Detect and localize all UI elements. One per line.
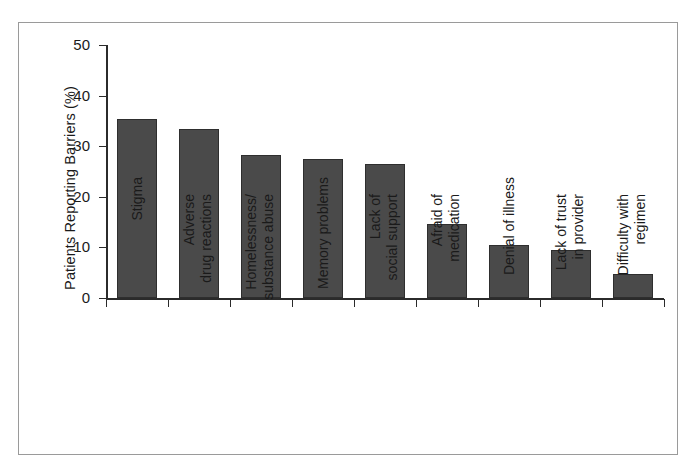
y-tick-mark [99, 96, 106, 97]
x-tick-mark [664, 299, 665, 307]
x-category-label: Lack ofsocial support [367, 194, 401, 344]
x-tick-mark [478, 299, 479, 307]
x-category-label-wrap: Lack of trustin provider [553, 194, 587, 344]
x-category-label-line: Difficulty with [615, 194, 632, 344]
x-category-label-line: Homelessness/ [243, 194, 260, 344]
x-tick-mark [168, 299, 169, 307]
x-category-label-line: medication [446, 194, 463, 344]
y-tick-mark [99, 45, 106, 46]
x-category-label: Difficulty withregimen [615, 194, 649, 344]
x-category-label-line: Lack of [367, 194, 384, 344]
x-category-label-line: Adverse [181, 194, 198, 344]
x-category-label-line: drug reactions [198, 194, 215, 344]
y-tick-label: 50 [50, 36, 90, 53]
x-category-label: Afraid ofmedication [429, 194, 463, 344]
y-tick-label: 20 [50, 188, 90, 205]
y-tick-label: 0 [50, 289, 90, 306]
x-category-label: Stigma [129, 177, 146, 327]
y-tick-mark [99, 197, 106, 198]
x-category-label-line: Stigma [129, 177, 146, 327]
x-category-label-wrap: Adversedrug reactions [181, 194, 215, 344]
x-category-label-line: in provider [570, 194, 587, 344]
x-category-label-wrap: Denial of illness [501, 177, 518, 327]
bar-chart-plot-area: Patients Reporting Barriers (%) 01020304… [19, 23, 679, 456]
x-category-label-line: Memory problems [315, 177, 332, 327]
x-category-label: Denial of illness [501, 177, 518, 327]
x-category-label-wrap: Memory problems [315, 177, 332, 327]
x-tick-mark [106, 299, 107, 307]
x-category-label-line: Lack of trust [553, 194, 570, 344]
x-category-label: Lack of trustin provider [553, 194, 587, 344]
y-tick-label: 40 [50, 87, 90, 104]
x-tick-mark [354, 299, 355, 307]
y-axis-line [106, 45, 108, 299]
x-category-label: Memory problems [315, 177, 332, 327]
x-tick-mark [416, 299, 417, 307]
x-category-label-line: regimen [632, 194, 649, 344]
y-tick-mark [99, 298, 106, 299]
y-tick-mark [99, 146, 106, 147]
x-tick-mark [602, 299, 603, 307]
x-tick-mark [540, 299, 541, 307]
x-tick-mark [292, 299, 293, 307]
figure-frame: Patients Reporting Barriers (%) 01020304… [18, 22, 678, 455]
x-category-label-line: Afraid of [429, 194, 446, 344]
y-tick-mark [99, 247, 106, 248]
x-category-label: Adversedrug reactions [181, 194, 215, 344]
x-category-label-line: social support [384, 194, 401, 344]
x-category-label-line: Denial of illness [501, 177, 518, 327]
x-category-label-wrap: Difficulty withregimen [615, 194, 649, 344]
y-tick-label: 30 [50, 137, 90, 154]
x-tick-mark [230, 299, 231, 307]
x-category-label-wrap: Homelessness/substance abuse [243, 194, 277, 344]
x-category-label-wrap: Afraid ofmedication [429, 194, 463, 344]
x-category-label-wrap: Lack ofsocial support [367, 194, 401, 344]
y-tick-label: 10 [50, 238, 90, 255]
x-category-label: Homelessness/substance abuse [243, 194, 277, 344]
x-category-label-line: substance abuse [260, 194, 277, 344]
x-category-label-wrap: Stigma [129, 177, 146, 327]
